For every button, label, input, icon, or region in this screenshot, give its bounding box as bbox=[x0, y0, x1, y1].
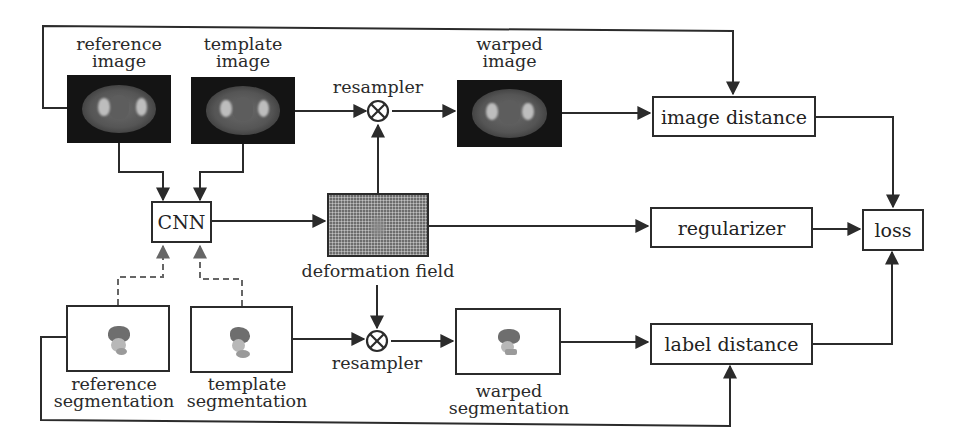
regularizer-box: regularizer bbox=[650, 207, 813, 248]
resampler-top-label: resampler bbox=[328, 79, 428, 96]
resampler-top-symbol bbox=[368, 101, 388, 121]
cnn-box: CNN bbox=[151, 201, 212, 243]
warped-image-label: warped image bbox=[457, 36, 562, 70]
template-segmentation-box bbox=[190, 306, 293, 373]
warped-segmentation-label-line2: segmentation bbox=[440, 400, 578, 417]
warped-image-label-line2: image bbox=[457, 53, 562, 70]
deformation-field-label: deformation field bbox=[290, 263, 466, 280]
template-segmentation-label: template segmentation bbox=[178, 376, 316, 410]
label-distance-box: label distance bbox=[650, 323, 813, 365]
reference-segmentation-box bbox=[66, 305, 170, 372]
warped-segmentation-box bbox=[455, 308, 561, 375]
warped-image-thumbnail bbox=[457, 80, 562, 147]
template-image-thumbnail bbox=[191, 77, 295, 144]
loss-box: loss bbox=[862, 209, 924, 251]
edge-reference-seg-to-cnn bbox=[118, 246, 163, 305]
edge-template-image-to-cnn bbox=[200, 144, 243, 200]
reference-segmentation-mask bbox=[108, 326, 134, 358]
reference-segmentation-label-line2: segmentation bbox=[40, 393, 188, 410]
deformation-field-thumbnail bbox=[327, 193, 429, 257]
resampler-bottom-label: resampler bbox=[327, 355, 427, 372]
edge-reference-image-to-cnn bbox=[119, 143, 163, 200]
image-distance-box: image distance bbox=[652, 96, 816, 137]
template-segmentation-label-line2: segmentation bbox=[178, 393, 316, 410]
edge-label-distance-to-loss bbox=[812, 252, 892, 344]
reference-image-label: reference image bbox=[67, 36, 171, 70]
reference-image-label-line2: image bbox=[67, 53, 171, 70]
reference-image-thumbnail bbox=[67, 75, 171, 143]
resampler-bottom-symbol bbox=[367, 331, 387, 351]
reference-segmentation-label: reference segmentation bbox=[40, 376, 188, 410]
template-image-label: template image bbox=[191, 36, 295, 70]
edge-image-distance-to-loss bbox=[816, 117, 893, 207]
warped-segmentation-mask bbox=[498, 329, 522, 359]
edge-template-seg-to-cnn bbox=[200, 246, 242, 306]
template-segmentation-mask bbox=[230, 327, 256, 361]
template-image-label-line2: image bbox=[191, 53, 295, 70]
warped-segmentation-label: warped segmentation bbox=[440, 383, 578, 417]
